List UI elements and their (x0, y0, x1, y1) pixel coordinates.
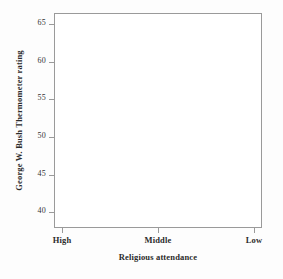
x-tick-label: Low (246, 235, 263, 246)
x-tick-label: High (53, 235, 72, 246)
x-axis-title: Religious attendance (54, 252, 262, 263)
plot-area (54, 13, 262, 228)
y-tick-label: 60 (38, 56, 46, 65)
chart-figure: 65 60 55 50 45 40 George W. Bush Thermom… (0, 0, 283, 279)
y-tick-label: 40 (38, 206, 46, 215)
x-tick-mark (158, 228, 159, 233)
x-tick-label: Middle (145, 235, 172, 246)
x-tick-mark (254, 228, 255, 233)
y-tick-label: 65 (38, 18, 46, 27)
x-tick-mark (62, 228, 63, 233)
y-tick-label: 50 (38, 131, 46, 140)
y-tick-mark (49, 212, 54, 213)
y-tick-label: 55 (38, 93, 46, 102)
y-tick-mark (49, 137, 54, 138)
y-tick-mark (49, 99, 54, 100)
y-tick-label: 45 (38, 169, 46, 178)
y-tick-mark (49, 24, 54, 25)
y-axis-title: George W. Bush Thermometer rating (12, 13, 26, 228)
y-tick-mark (49, 175, 54, 176)
y-tick-mark (49, 62, 54, 63)
